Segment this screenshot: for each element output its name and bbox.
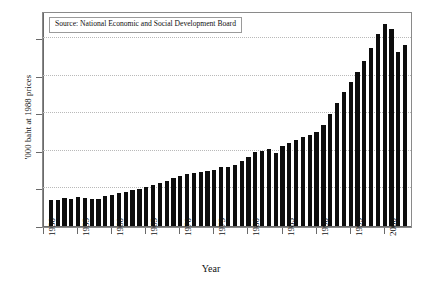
x-tick-label-1960: 1960 xyxy=(115,218,125,236)
bar xyxy=(144,187,148,226)
bar xyxy=(369,48,373,226)
bar xyxy=(274,153,278,226)
bar xyxy=(342,92,346,226)
bar xyxy=(280,146,284,226)
bar xyxy=(246,157,250,226)
bar xyxy=(328,114,332,226)
bar xyxy=(294,140,298,226)
x-tick-label-2000: 2000 xyxy=(388,218,398,236)
y-axis-title: '000 baht at 1988 prices xyxy=(23,17,33,217)
bar xyxy=(205,171,209,226)
x-tick-label-1950: 1950 xyxy=(47,218,57,236)
y-tick-mark-40 xyxy=(36,77,42,78)
bar xyxy=(253,152,257,226)
x-tick-label-1980: 1980 xyxy=(251,218,261,236)
x-tick-label-1965: 1965 xyxy=(149,218,159,236)
x-tick-label-1970: 1970 xyxy=(183,218,193,236)
x-tick-mark-1955 xyxy=(77,228,78,234)
x-tick-label-1995: 1995 xyxy=(354,218,364,236)
x-tick-mark-1965 xyxy=(145,228,146,234)
y-tick-mark-50 xyxy=(36,39,42,40)
bar xyxy=(355,72,359,226)
bar xyxy=(199,172,203,226)
bar xyxy=(376,34,380,226)
bar xyxy=(349,82,353,226)
x-tick-mark-1950 xyxy=(43,228,44,234)
x-tick-mark-1970 xyxy=(179,228,180,234)
x-tick-label-1955: 1955 xyxy=(81,218,91,236)
x-tick-mark-1960 xyxy=(111,228,112,234)
bar xyxy=(233,165,237,226)
x-tick-mark-1975 xyxy=(213,228,214,234)
bar xyxy=(403,45,407,226)
x-tick-label-1990: 1990 xyxy=(320,218,330,236)
y-tick-mark-10 xyxy=(36,189,42,190)
bar xyxy=(321,125,325,226)
bar xyxy=(110,195,114,226)
bar xyxy=(212,170,216,226)
y-tick-mark-0 xyxy=(36,227,42,228)
x-tick-mark-1980 xyxy=(247,228,248,234)
bar xyxy=(96,199,100,226)
bar xyxy=(308,135,312,226)
bar-series xyxy=(44,14,410,226)
bar xyxy=(389,29,393,226)
bar xyxy=(362,61,366,226)
chart-figure: '000 baht at 1988 prices Year Source: Na… xyxy=(0,0,422,285)
bar xyxy=(335,103,339,226)
bar xyxy=(383,24,387,226)
bar xyxy=(314,132,318,226)
bar xyxy=(62,198,66,226)
x-tick-mark-1990 xyxy=(316,228,317,234)
y-tick-mark-30 xyxy=(36,114,42,115)
y-tick-mark-20 xyxy=(36,152,42,153)
x-tick-mark-1985 xyxy=(282,228,283,234)
x-axis-title: Year xyxy=(0,263,422,274)
bar xyxy=(301,137,305,226)
bar xyxy=(69,199,73,226)
bar xyxy=(137,189,141,226)
x-tick-label-1975: 1975 xyxy=(217,218,227,236)
x-tick-mark-2000 xyxy=(384,228,385,234)
bar xyxy=(267,149,271,226)
plot-area: Source: National Economic and Social Dev… xyxy=(42,12,412,228)
bar xyxy=(396,52,400,226)
bar xyxy=(76,197,80,226)
bar xyxy=(178,176,182,226)
bar xyxy=(240,161,244,226)
source-annotation: Source: National Economic and Social Dev… xyxy=(49,17,242,33)
x-tick-label-1985: 1985 xyxy=(286,218,296,236)
bar xyxy=(287,143,291,226)
x-tick-mark-1995 xyxy=(350,228,351,234)
bar xyxy=(103,196,107,226)
bar xyxy=(130,190,134,226)
bar xyxy=(165,181,169,226)
bar xyxy=(260,151,264,226)
bar xyxy=(171,178,175,226)
